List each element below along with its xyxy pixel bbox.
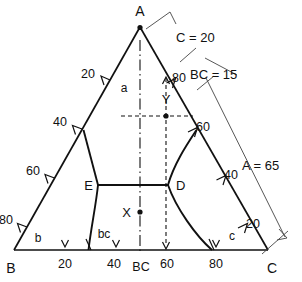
arrow-down-60 [163,242,170,249]
tick-label-bottom-40: 40 [107,257,121,271]
tick-label-left-20: 20 [81,67,95,81]
vertex-A-dot [137,25,142,30]
region-label-bc: bc [98,227,111,241]
construction-lines [121,78,193,243]
tick-label-right-60: 60 [196,120,210,134]
tick-label-bottom-60: 60 [160,257,174,271]
boundary-left-lower [89,185,99,250]
vertex-label-A: A [135,3,145,19]
tick-label-left-60: 60 [26,164,40,178]
triangle-side-AB [14,27,140,250]
point-markers [137,25,168,215]
point-Y-dot [163,113,168,118]
tick-bottom-20 [62,240,69,247]
point-label-X: X [122,205,131,220]
tick-label-bottom-80: 80 [209,257,223,271]
dimension-label-BC: BC = 15 [190,67,237,82]
region-label-a: a [121,81,128,95]
dimension-label-A: A = 65 [242,158,279,173]
point-label-Y: Y [162,92,171,107]
dimension-lines [146,12,288,254]
dim-leader-C-tail [170,12,176,24]
tick-bottom-80 [213,240,220,247]
dim-tick-BC [180,48,196,62]
tick-label-left-40: 40 [53,115,67,129]
dimension-label-C: C = 20 [176,30,215,45]
dim-leader-C [146,12,170,29]
tick-label-right-20: 20 [246,217,260,231]
axis-bottom-center-label: BC [132,260,149,274]
tick-label-right-80: 80 [172,71,186,85]
boundary-right-lower [168,185,212,250]
region-label-c: c [229,229,235,243]
vertex-label-C: C [267,260,277,276]
boundary-left-upper [84,130,99,185]
point-X-dot [137,209,142,214]
vertex-label-B: B [6,260,15,276]
tick-label-right-40: 40 [224,168,238,182]
ticks-left [18,76,111,233]
point-label-D: D [176,178,185,193]
ticks-right [167,79,248,234]
point-label-E: E [84,178,93,193]
tick-label-left-80: 80 [0,213,13,227]
boundary-right-upper [168,130,197,185]
ternary-diagram: A B C 20 40 60 80 BC 20 40 60 80 80 60 4… [0,0,302,282]
region-label-b: b [35,231,42,245]
tick-label-bottom-20: 20 [58,257,72,271]
tick-bottom-40 [113,240,120,247]
triangle-outline [14,27,268,250]
